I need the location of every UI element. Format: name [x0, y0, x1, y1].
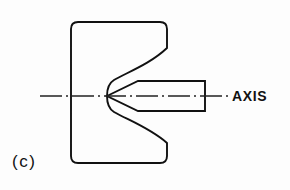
figure-caption: (c) — [12, 152, 36, 172]
axis-label: AXIS — [232, 88, 267, 104]
notched-block-outline — [71, 22, 167, 163]
